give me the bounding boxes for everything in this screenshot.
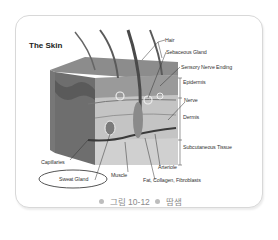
- label-dermis: Dermis: [183, 114, 199, 120]
- figure-caption: 그림 10-12 땀샘: [0, 195, 278, 207]
- diagram-title: The Skin: [29, 41, 62, 50]
- label-hair: Hair: [165, 37, 174, 43]
- label-capillaries: Capillaries: [41, 159, 65, 165]
- label-sebaceous-gland: Sebaceous Gland: [166, 49, 207, 55]
- label-sensory-nerve-ending: Sensory Nerve Ending: [181, 64, 232, 70]
- label-epidermis: Epidermis: [183, 79, 206, 85]
- label-sweat-gland: Sweat Gland: [59, 176, 88, 182]
- bullet-icon: [99, 199, 104, 204]
- label-arteriole: Arteriole: [158, 164, 177, 170]
- figure-number: 그림 10-12: [110, 197, 150, 207]
- label-nerve: Nerve: [184, 97, 198, 103]
- bullet-icon: [155, 199, 160, 204]
- label-muscle: Muscle: [111, 172, 127, 178]
- figure-title: 땀샘: [166, 197, 182, 207]
- label-subcutaneous-tissue: Subcutaneous Tissue: [183, 144, 232, 150]
- label-fat-collagen-fibroblasts: Fat, Collagen, Fibroblasts: [143, 177, 201, 183]
